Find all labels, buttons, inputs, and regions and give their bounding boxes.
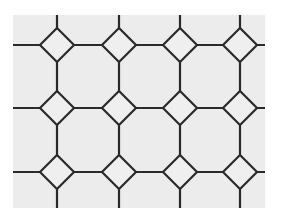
tile-pattern-photo bbox=[13, 15, 265, 208]
tile-pattern-graphic bbox=[13, 15, 265, 208]
